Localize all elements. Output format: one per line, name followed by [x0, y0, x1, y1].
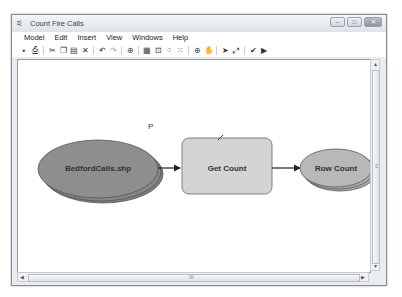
output-node-label: Row Count: [300, 164, 371, 173]
fixed-zoom-in-icon[interactable]: ⁘: [165, 46, 173, 55]
menu-windows[interactable]: Windows: [132, 32, 162, 44]
menu-edit[interactable]: Edit: [54, 32, 67, 44]
toolbar-separator: [121, 46, 122, 55]
toolbar-separator: [244, 46, 245, 55]
print-icon[interactable]: ⎙: [31, 46, 39, 55]
vertical-scroll-thumb[interactable]: ≡: [372, 70, 380, 264]
toolbar-separator: [188, 46, 189, 55]
parameter-label: P: [148, 122, 153, 131]
add-data-icon[interactable]: ⊕: [126, 46, 134, 55]
undo-icon[interactable]: ↶: [98, 46, 106, 55]
scroll-up-arrow-icon[interactable]: ▲: [373, 61, 378, 67]
connect-icon[interactable]: ⤢: [232, 46, 240, 55]
grip-icon: ≡: [375, 163, 379, 169]
toolbar-separator: [93, 46, 94, 55]
paste-icon[interactable]: ▤: [70, 46, 78, 55]
minimize-button[interactable]: –: [330, 17, 345, 27]
copy-icon[interactable]: ❐: [59, 46, 67, 55]
toolbar-separator: [43, 46, 44, 55]
close-button[interactable]: ✕: [364, 17, 382, 27]
grip-icon: III: [189, 274, 194, 280]
auto-layout-icon[interactable]: ▦: [143, 46, 151, 55]
model-icon: ⚟: [16, 19, 23, 28]
vertical-scrollbar[interactable]: ▲ ≡ ▼: [370, 59, 380, 271]
fixed-zoom-out-icon[interactable]: ⁙: [176, 46, 184, 55]
save-icon[interactable]: ▪: [20, 46, 28, 55]
tool-node-label: Get Count: [182, 164, 272, 173]
delete-icon[interactable]: ✕: [81, 46, 89, 55]
horizontal-scrollbar[interactable]: ◀ III ▶: [17, 272, 369, 282]
select-icon[interactable]: ➤: [221, 46, 229, 55]
horizontal-scroll-thumb[interactable]: III: [28, 274, 360, 282]
scroll-down-arrow-icon[interactable]: ▼: [373, 263, 378, 269]
scroll-right-arrow-icon[interactable]: ▶: [361, 274, 365, 280]
cut-icon[interactable]: ✂: [48, 46, 56, 55]
scroll-left-arrow-icon[interactable]: ◀: [20, 274, 24, 280]
menu-view[interactable]: View: [106, 32, 122, 44]
menu-model[interactable]: Model: [24, 32, 44, 44]
pan-icon[interactable]: ✋: [204, 46, 212, 55]
model-builder-window: ⚟ Count Fire Calls – □ ✕ Model Edit Inse…: [11, 14, 387, 286]
toolbar: ▪ ⎙ ✂ ❐ ▤ ✕ ↶ ↷ ⊕ ▦ ⊡ ⁘ ⁙ ⊕ ✋ ➤ ⤢ ✔ ▶: [12, 44, 386, 57]
menu-insert[interactable]: Insert: [77, 32, 96, 44]
menu-help[interactable]: Help: [173, 32, 188, 44]
window-title: Count Fire Calls: [30, 19, 84, 28]
toolbar-separator: [216, 46, 217, 55]
redo-icon[interactable]: ↷: [109, 46, 117, 55]
validate-icon[interactable]: ✔: [249, 46, 257, 55]
zoom-in-icon[interactable]: ⊕: [193, 46, 201, 55]
maximize-button[interactable]: □: [347, 17, 362, 27]
toolbar-separator: [138, 46, 139, 55]
full-extent-icon[interactable]: ⊡: [154, 46, 162, 55]
model-canvas[interactable]: P BedfordCalls.shp Get Count Row Count: [17, 59, 371, 273]
title-bar[interactable]: ⚟ Count Fire Calls – □ ✕: [12, 15, 386, 32]
input-node-label: BedfordCalls.shp: [38, 164, 158, 173]
run-icon[interactable]: ▶: [260, 46, 268, 55]
menu-bar: Model Edit Insert View Windows Help: [12, 32, 386, 44]
